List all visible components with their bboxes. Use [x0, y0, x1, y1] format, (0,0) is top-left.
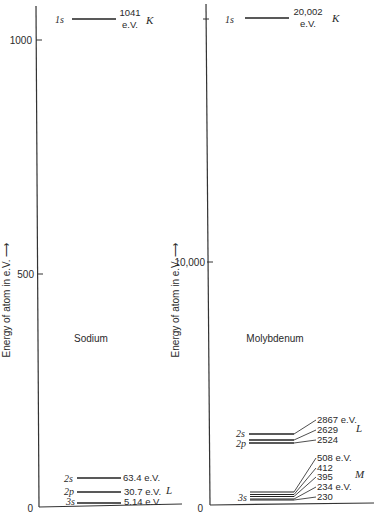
sodium-value-1s: 1041	[119, 7, 140, 18]
sodium-y-axis	[36, 6, 39, 507]
molybdenum-panel: 10,000 0 Energy of atom in e.V. ⟶ Molybd…	[170, 4, 374, 514]
sodium-y-axis-label: Energy of atom in e.V. ⟶	[1, 243, 12, 358]
sodium-panel: 1000 500 0 Energy of atom in e.V. ⟶ Sodi…	[1, 6, 182, 514]
molybdenum-shell-K: K	[331, 12, 340, 24]
sodium-orbital-3s: 3s	[65, 496, 75, 507]
molybdenum-leader-2524	[294, 440, 316, 443]
molybdenum-value-230: 230	[317, 491, 333, 502]
molybdenum-value-2524: 2524	[317, 434, 338, 445]
molybdenum-orbital-2p: 2p	[236, 438, 246, 449]
sodium-orbital-1s: 1s	[55, 14, 64, 25]
molybdenum-shell-M: M	[354, 468, 365, 480]
sodium-unit-1s: e.V.	[122, 19, 138, 30]
sodium-orbital-2s: 2s	[64, 473, 73, 484]
molybdenum-orbital-1s: 1s	[225, 14, 234, 25]
sodium-tick-label-500: 500	[17, 269, 34, 280]
molybdenum-leader-412	[294, 468, 316, 495]
molybdenum-y-axis	[206, 4, 210, 505]
sodium-value-2s: 63.4 e.V.	[123, 472, 160, 483]
energy-level-diagrams: 1000 500 0 Energy of atom in e.V. ⟶ Sodi…	[0, 0, 378, 514]
sodium-value-3s: 5.14 e.V.	[124, 496, 161, 507]
sodium-element-label: Sodium	[74, 333, 108, 344]
molybdenum-orbital-3s: 3s	[237, 492, 247, 503]
molybdenum-y-axis-label: Energy of atom in e.V. ⟶	[170, 243, 181, 358]
molybdenum-x-axis	[210, 503, 374, 505]
sodium-shell-L: L	[165, 484, 172, 496]
sodium-shell-K: K	[145, 14, 154, 26]
molybdenum-value-1s: 20,002	[293, 6, 322, 17]
molybdenum-shell-L: L	[355, 422, 362, 434]
molybdenum-element-label: Molybdenum	[246, 333, 303, 344]
sodium-tick-label-1000: 1000	[10, 35, 33, 46]
molybdenum-tick-label-0: 0	[197, 503, 203, 514]
sodium-tick-label-0: 0	[27, 503, 33, 514]
molybdenum-unit-1s: e.V.	[300, 18, 316, 29]
